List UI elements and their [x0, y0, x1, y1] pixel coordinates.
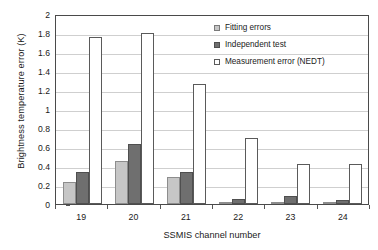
y-axis-tick-labels: 21.81.61.41.210.80.60.40.20 [16, 15, 50, 205]
chart-legend: Fitting errorsIndependent testMeasuremen… [214, 21, 325, 72]
x-tick-mark [212, 205, 213, 209]
bar[interactable] [219, 202, 232, 204]
bar[interactable] [323, 202, 336, 204]
y-tick-label: 1.4 [16, 68, 50, 76]
y-tick-label: 0.4 [16, 163, 50, 171]
legend-swatch-icon [214, 42, 220, 48]
bar[interactable] [193, 84, 206, 204]
bar-group [56, 16, 108, 204]
legend-swatch-icon [214, 25, 220, 31]
bar-chart-figure: Brightness temperature error (K) 21.81.6… [0, 0, 378, 250]
legend-item[interactable]: Measurement error (NEDT) [214, 55, 325, 68]
x-tick-mark [369, 205, 370, 209]
bar[interactable] [232, 199, 245, 204]
legend-label: Independent test [225, 40, 286, 49]
bar[interactable] [271, 202, 284, 204]
x-tick-label: 22 [212, 205, 264, 225]
y-tick-label: 1 [16, 106, 50, 114]
bar[interactable] [89, 37, 102, 204]
x-tick-label: 24 [317, 205, 369, 225]
x-axis-title: SSMIS channel number [55, 230, 369, 240]
bar[interactable] [167, 177, 180, 204]
legend-swatch-icon [214, 59, 220, 65]
bar[interactable] [297, 164, 310, 204]
bar[interactable] [284, 196, 297, 204]
x-tick-label: 19 [55, 205, 107, 225]
x-tick-label: 23 [264, 205, 316, 225]
y-tick-label: 0.8 [16, 125, 50, 133]
legend-item[interactable]: Fitting errors [214, 21, 325, 34]
bar[interactable] [63, 182, 76, 204]
bar[interactable] [245, 138, 258, 204]
y-tick-label: 1.6 [16, 49, 50, 57]
y-tick-label: 2 [16, 11, 50, 19]
y-tick-label: 1.8 [16, 30, 50, 38]
bar-group [108, 16, 160, 204]
y-tick-label: 1.2 [16, 87, 50, 95]
bar-group [160, 16, 212, 204]
bar[interactable] [115, 161, 128, 204]
x-tick-mark [264, 205, 265, 209]
y-tick-label: 0 [16, 201, 50, 209]
x-tick-mark [107, 205, 108, 209]
legend-item[interactable]: Independent test [214, 38, 325, 51]
x-tick-mark [317, 205, 318, 209]
y-tick-label: 0.6 [16, 144, 50, 152]
bar[interactable] [349, 164, 362, 204]
bar[interactable] [128, 144, 141, 204]
legend-label: Measurement error (NEDT) [225, 57, 325, 66]
x-tick-mark [55, 205, 56, 209]
legend-label: Fitting errors [225, 23, 271, 32]
x-tick-label: 21 [160, 205, 212, 225]
x-tick-label: 20 [107, 205, 159, 225]
x-tick-mark [160, 205, 161, 209]
bar[interactable] [180, 172, 193, 204]
x-axis-tick-labels: 192021222324 [55, 205, 369, 225]
bar[interactable] [141, 33, 154, 204]
bar[interactable] [76, 172, 89, 204]
y-tick-label: 0.2 [16, 182, 50, 190]
bar[interactable] [336, 200, 349, 204]
